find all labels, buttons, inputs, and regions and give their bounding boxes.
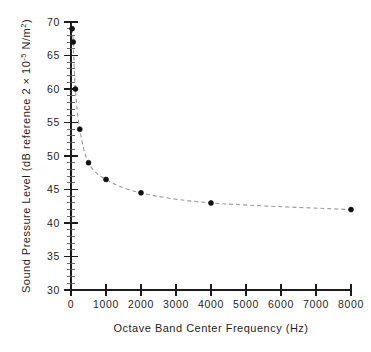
data-point bbox=[77, 127, 82, 132]
x-tick-label-8000: 8000 bbox=[338, 298, 364, 310]
x-tick-label-7000: 7000 bbox=[303, 298, 329, 310]
x-tick-label-3000: 3000 bbox=[163, 298, 189, 310]
y-tick-label-65: 65 bbox=[47, 49, 60, 61]
y-tick-label-30: 30 bbox=[47, 284, 60, 296]
y-axis-title-prefix: Sound Pressure Level (dB reference 2 × 1… bbox=[20, 61, 32, 293]
y-tick-label-70: 70 bbox=[47, 16, 60, 28]
data-point bbox=[73, 87, 78, 92]
y-tick-label-55: 55 bbox=[47, 116, 60, 128]
y-axis-title-close: ) bbox=[20, 19, 32, 23]
data-point bbox=[209, 200, 214, 205]
y-axis-title-exponent: -5 bbox=[19, 53, 28, 61]
x-axis-tick-labels: 010002000300040005000600070008000 bbox=[68, 298, 364, 310]
y-axis-title-suffix: N/m bbox=[20, 28, 32, 53]
x-tick-label-1000: 1000 bbox=[93, 298, 119, 310]
x-tick-label-4000: 4000 bbox=[198, 298, 224, 310]
x-tick-label-6000: 6000 bbox=[268, 298, 294, 310]
chart-canvas: 303540455055606570 010002000300040005000… bbox=[0, 0, 371, 352]
data-point bbox=[104, 177, 109, 182]
x-tick-label-5000: 5000 bbox=[233, 298, 259, 310]
y-axis-tick-labels: 303540455055606570 bbox=[47, 16, 60, 296]
y-tick-label-35: 35 bbox=[47, 250, 60, 262]
x-tick-label-0: 0 bbox=[68, 298, 74, 310]
data-point bbox=[349, 207, 354, 212]
data-point bbox=[71, 40, 76, 45]
y-tick-label-50: 50 bbox=[47, 150, 60, 162]
data-point bbox=[86, 160, 91, 165]
y-tick-label-40: 40 bbox=[47, 217, 60, 229]
x-tick-label-2000: 2000 bbox=[128, 298, 154, 310]
chart-figure: 303540455055606570 010002000300040005000… bbox=[0, 0, 371, 352]
y-tick-label-45: 45 bbox=[47, 183, 60, 195]
x-axis-title: Octave Band Center Frequency (Hz) bbox=[113, 322, 308, 334]
data-point bbox=[70, 26, 75, 31]
data-point bbox=[139, 190, 144, 195]
y-tick-label-60: 60 bbox=[47, 83, 60, 95]
